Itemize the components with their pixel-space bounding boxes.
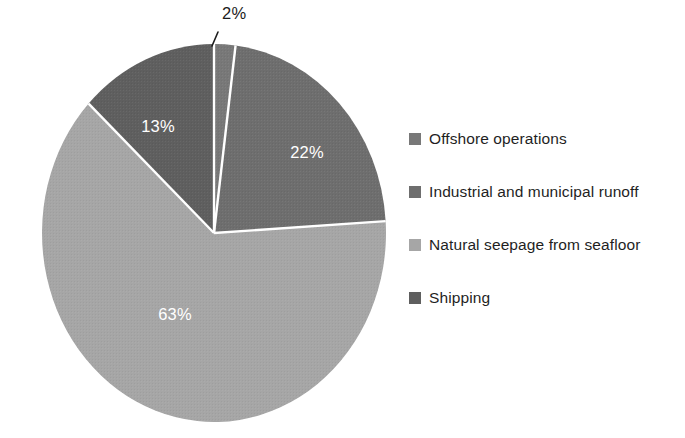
legend-item-label: Offshore operations <box>429 130 567 147</box>
legend-item-natural-seepage-from-seafloor[interactable]: Natural seepage from seafloor <box>409 236 681 289</box>
slice-value-label-63: 63% <box>158 305 192 323</box>
pie-chart: 22% 63% 13% 2% Offshore operations Indus… <box>0 0 685 438</box>
legend: Offshore operations Industrial and munic… <box>409 130 681 342</box>
slice-value-label-2: 2% <box>222 4 246 23</box>
legend-item-offshore-operations[interactable]: Offshore operations <box>409 130 681 183</box>
legend-item-label: Industrial and municipal runoff <box>429 183 639 200</box>
callout-leader-line <box>212 32 218 46</box>
legend-item-label: Natural seepage from seafloor <box>429 236 640 253</box>
legend-item-label: Shipping <box>429 289 490 306</box>
legend-item-industrial-and-municipal-runoff[interactable]: Industrial and municipal runoff <box>409 183 681 236</box>
legend-swatch-icon <box>409 239 421 251</box>
legend-swatch-icon <box>409 186 421 198</box>
legend-item-shipping[interactable]: Shipping <box>409 289 681 342</box>
slice-value-label-13: 13% <box>141 117 175 135</box>
legend-swatch-icon <box>409 133 421 145</box>
slice-value-label-22: 22% <box>290 143 324 161</box>
legend-swatch-icon <box>409 292 421 304</box>
